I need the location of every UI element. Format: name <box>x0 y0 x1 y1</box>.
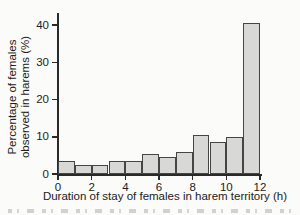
histogram-bar <box>75 165 92 174</box>
histogram-bar <box>109 161 126 174</box>
y-tick-mark <box>52 99 59 101</box>
y-axis-title-line1: Percentage of females <box>6 32 19 162</box>
y-tick-mark <box>52 136 59 138</box>
y-tick-mark <box>52 62 59 64</box>
histogram-bar <box>210 142 227 174</box>
x-tick-mark <box>91 175 93 180</box>
y-tick-label: 20 <box>23 93 49 106</box>
x-tick-mark <box>192 175 194 180</box>
y-tick-label: 30 <box>23 56 49 69</box>
clipped-caption-fragment <box>8 209 292 213</box>
y-tick-label: 10 <box>23 130 49 143</box>
harem-duration-histogram-figure: Percentage of females observed in harems… <box>0 0 300 215</box>
histogram-bar <box>92 165 109 174</box>
x-tick-mark <box>158 175 160 180</box>
histogram-bar <box>58 161 75 174</box>
histogram-bar <box>142 154 159 174</box>
histogram-bar <box>176 152 193 174</box>
x-tick-mark <box>226 175 228 180</box>
histogram-bar <box>193 135 210 174</box>
x-tick-mark <box>57 175 59 180</box>
y-tick-label: 40 <box>23 19 49 32</box>
histogram-bar <box>243 23 260 174</box>
x-tick-mark <box>125 175 127 180</box>
histogram-bar <box>125 161 142 174</box>
y-tick-mark <box>52 24 59 26</box>
histogram-bar <box>226 137 243 174</box>
histogram-bar <box>159 157 176 174</box>
y-tick-label: 0 <box>23 168 49 181</box>
x-axis-title: Duration of stay of females in harem ter… <box>30 190 300 203</box>
plot-area: 010203040024681012 <box>58 14 260 174</box>
x-tick-mark <box>259 175 261 180</box>
